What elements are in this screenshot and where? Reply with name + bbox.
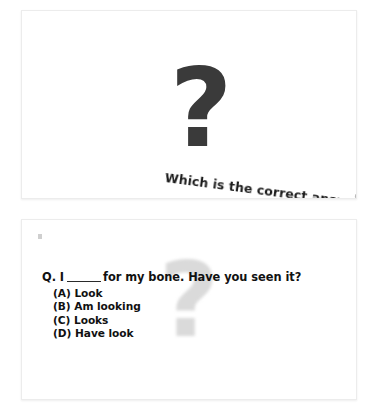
slide-caption: Which is the correct answer? bbox=[164, 170, 357, 199]
quiz-question-line: Q. Ifor my bone. Have you seen it? bbox=[42, 270, 342, 284]
quiz-block: Q. Ifor my bone. Have you seen it? (A) L… bbox=[42, 270, 342, 341]
question-text-before-blank: I bbox=[60, 270, 64, 284]
quiz-option-c-label: Looks bbox=[74, 314, 108, 326]
quiz-option-d[interactable]: (D) Have look bbox=[53, 327, 342, 340]
quiz-option-a-key: (A) bbox=[53, 287, 71, 299]
stray-speck-artifact bbox=[38, 234, 42, 239]
quiz-option-b-label: Am looking bbox=[74, 300, 140, 312]
quiz-option-c-key: (C) bbox=[53, 314, 70, 326]
quiz-option-d-key: (D) bbox=[53, 327, 71, 339]
quiz-option-a[interactable]: (A) Look bbox=[53, 287, 342, 300]
answer-blank-rule bbox=[67, 281, 101, 282]
caption-artifact-mark bbox=[355, 194, 357, 198]
quiz-options-list: (A) Look (B) Am looking (C) Looks (D) Ha… bbox=[42, 287, 342, 341]
title-slide-panel: ? Which is the correct answer? bbox=[21, 10, 357, 199]
document-page: ? Which is the correct answer? ? Q. Ifor… bbox=[0, 0, 368, 411]
quiz-option-d-label: Have look bbox=[75, 327, 134, 339]
quiz-option-c[interactable]: (C) Looks bbox=[53, 314, 342, 327]
quiz-option-a-label: Look bbox=[74, 287, 102, 299]
question-label: Q. bbox=[42, 270, 56, 284]
question-mark-icon: ? bbox=[142, 55, 260, 173]
quiz-option-b[interactable]: (B) Am looking bbox=[53, 300, 342, 313]
question-text-after-blank: for my bone. Have you seen it? bbox=[103, 270, 301, 284]
quiz-option-b-key: (B) bbox=[53, 300, 71, 312]
